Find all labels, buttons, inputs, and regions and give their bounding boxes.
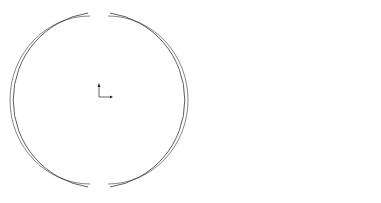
split-ring — [10, 13, 188, 187]
right-arc-inner — [108, 16, 188, 184]
coordinate-axes — [98, 83, 114, 99]
left-arc-inner — [10, 16, 90, 184]
left-arc-outer — [13, 13, 88, 187]
right-arc-outer — [110, 13, 185, 187]
diagram-canvas — [0, 0, 381, 203]
